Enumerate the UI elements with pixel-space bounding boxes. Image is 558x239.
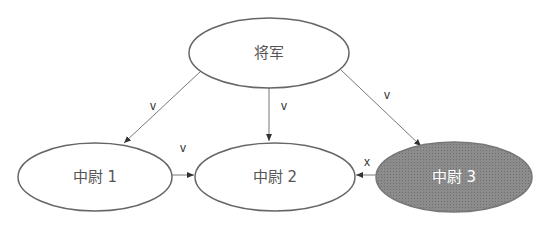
- node-lieutenant-1-label: 中尉 1: [73, 168, 117, 186]
- node-lieutenant-3-traitor: 中尉 3: [376, 142, 532, 212]
- edge-label-general-lt2: v: [281, 99, 287, 113]
- edge-label-lt1-lt2: v: [180, 141, 186, 155]
- edge-label-lt3-lt2: x: [364, 155, 370, 169]
- edge-general-to-lt1: [124, 71, 201, 143]
- edge-label-general-lt3: v: [384, 88, 390, 102]
- node-lieutenant-1: 中尉 1: [18, 143, 172, 211]
- edge-label-general-lt1: v: [150, 99, 156, 113]
- node-lieutenant-3-label: 中尉 3: [432, 168, 476, 186]
- node-general: 将军: [189, 18, 349, 88]
- node-general-label: 将军: [254, 44, 284, 62]
- node-lieutenant-2: 中尉 2: [195, 143, 355, 211]
- node-lieutenant-2-label: 中尉 2: [253, 168, 297, 186]
- edge-general-to-lt3: [341, 70, 421, 146]
- byzantine-generals-diagram: v v v v x 将军 中尉 1 中尉 2 中尉 3: [0, 0, 558, 239]
